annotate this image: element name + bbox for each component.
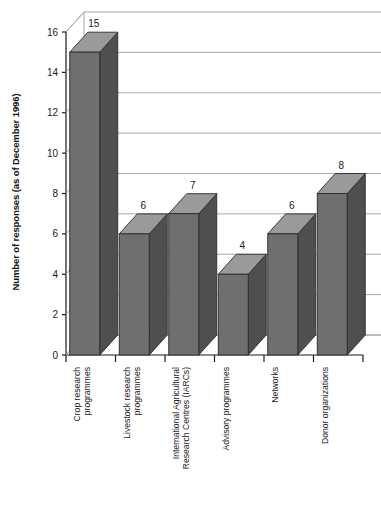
y-tick-label: 2 xyxy=(52,309,58,320)
y-tick-label: 4 xyxy=(52,269,58,280)
category-label: Crop research xyxy=(72,367,82,422)
bar-value-label: 6 xyxy=(140,200,146,211)
bar-side-face xyxy=(347,174,365,356)
y-tick-label: 16 xyxy=(47,27,59,38)
bar-value-label: 7 xyxy=(190,180,196,191)
y-tick-label: 12 xyxy=(47,107,59,118)
y-tick-label: 10 xyxy=(47,148,59,159)
y-axis-title: Number of responses (as of December 1996… xyxy=(10,93,21,290)
bar-3 xyxy=(169,194,217,355)
bar-front-face xyxy=(268,234,298,355)
y-tick-label: 14 xyxy=(47,67,59,78)
y-tick-label: 0 xyxy=(52,350,58,361)
category-label: Livestock research xyxy=(122,367,132,439)
bar-4 xyxy=(218,254,266,355)
bar-side-face xyxy=(149,214,167,355)
y-tick-label: 6 xyxy=(52,228,58,239)
bar-front-face xyxy=(317,194,347,356)
bar-5 xyxy=(268,214,316,355)
category-label: programmes xyxy=(132,367,142,415)
bar-side-face xyxy=(298,214,316,355)
category-label: International Agricultural xyxy=(171,367,181,459)
bar-2 xyxy=(119,214,167,355)
category-label: Advisory programmes xyxy=(221,367,231,451)
bar-side-face xyxy=(199,194,217,355)
bar-front-face xyxy=(218,274,248,355)
category-label: Research Centres (IARCs) xyxy=(181,367,191,469)
bar-1 xyxy=(70,32,118,355)
bar-front-face xyxy=(119,234,149,355)
bar-value-label: 6 xyxy=(289,200,295,211)
category-label: Networks xyxy=(270,367,280,403)
bar-chart-figure: 0246810121416 1567468 Crop researchprogr… xyxy=(0,0,381,516)
chart-canvas: 0246810121416 1567468 Crop researchprogr… xyxy=(0,0,381,516)
bar-value-label: 15 xyxy=(88,18,100,29)
bar-value-label: 4 xyxy=(239,240,245,251)
bar-side-face xyxy=(100,32,118,355)
y-tick-label: 8 xyxy=(52,188,58,199)
bar-front-face xyxy=(70,52,100,355)
category-label: programmes xyxy=(82,367,92,415)
bar-front-face xyxy=(169,214,199,355)
category-label: Donor organizations xyxy=(320,367,330,444)
bar-6 xyxy=(317,174,365,356)
bar-value-label: 8 xyxy=(338,160,344,171)
